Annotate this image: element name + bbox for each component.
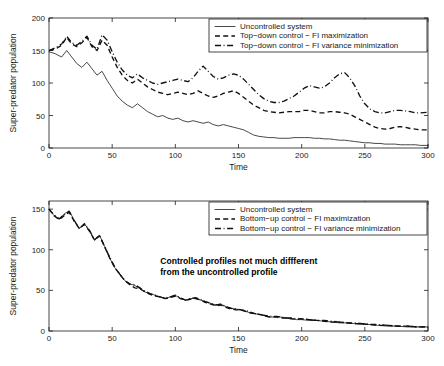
chart-panel-top: 050100150200250300050100150200TimeSuper-…: [0, 0, 444, 183]
x-tick-label: 100: [169, 151, 183, 160]
y-tick-label: 200: [32, 14, 46, 23]
x-tick-label: 50: [108, 334, 117, 343]
x-axis-title: Time: [229, 162, 248, 172]
chart-svg-bottom: 050100150200250300050100150TimeSuper-pre…: [0, 183, 444, 366]
x-axis-title: Time: [229, 345, 248, 355]
y-tick-label: 0: [41, 327, 46, 336]
x-tick-label: 250: [358, 334, 372, 343]
legend-label-2: Bottom−up control − FI variance minimiza…: [240, 224, 401, 233]
x-tick-label: 150: [232, 151, 246, 160]
y-tick-label: 50: [36, 286, 45, 295]
x-tick-label: 50: [108, 151, 117, 160]
legend-label-0: Uncontrolled system: [240, 22, 313, 31]
x-tick-label: 150: [232, 334, 246, 343]
y-axis-title: Super-predator population: [8, 216, 18, 315]
x-tick-label: 0: [47, 151, 52, 160]
y-tick-label: 150: [32, 47, 46, 56]
y-tick-label: 50: [36, 112, 45, 121]
x-tick-label: 300: [421, 334, 435, 343]
chart-svg-top: 050100150200250300050100150200TimeSuper-…: [0, 0, 444, 183]
legend-label-2: Top−down control − FI variance minimizat…: [240, 41, 398, 50]
x-tick-label: 200: [295, 151, 309, 160]
legend-label-1: Top−down control − FI maximization: [240, 31, 368, 40]
y-axis-title: Super-predator population: [8, 33, 18, 132]
legend-label-1: Bottom−up control − FI maximization: [240, 214, 370, 223]
y-tick-label: 150: [32, 205, 46, 214]
x-tick-label: 100: [169, 334, 183, 343]
x-tick-label: 250: [358, 151, 372, 160]
y-tick-label: 0: [41, 144, 46, 153]
figure-container: 050100150200250300050100150200TimeSuper-…: [0, 0, 444, 366]
x-tick-label: 0: [47, 334, 52, 343]
chart-annotation-line2: from the uncontrolled profile: [160, 267, 278, 277]
x-tick-label: 300: [421, 151, 435, 160]
chart-panel-bottom: 050100150200250300050100150TimeSuper-pre…: [0, 183, 444, 366]
chart-annotation-line1: Controlled profiles not much diffferent: [160, 256, 317, 266]
series-line-0: [49, 51, 428, 146]
x-tick-label: 200: [295, 334, 309, 343]
legend-label-0: Uncontrolled system: [240, 205, 313, 214]
y-tick-label: 100: [32, 79, 46, 88]
y-tick-label: 100: [32, 246, 46, 255]
